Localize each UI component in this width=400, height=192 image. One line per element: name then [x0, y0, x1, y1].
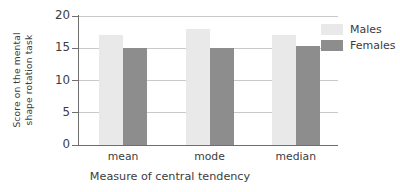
- x-axis-label-mode: mode: [170, 150, 250, 163]
- legend-label-males: Males: [350, 23, 382, 36]
- bar-median-males: [272, 35, 296, 145]
- legend-item-females: Females: [321, 37, 396, 53]
- legend: Males Females: [321, 21, 396, 53]
- bar-mode-males: [186, 29, 210, 145]
- bar-mean-females: [123, 48, 147, 145]
- x-axis-label-mean: mean: [83, 150, 163, 163]
- x-axis-line: [78, 145, 338, 146]
- legend-item-males: Males: [321, 21, 396, 37]
- y-axis-tick-label: 15: [44, 40, 70, 54]
- bar-chart: Score on the mental shape rotation task …: [0, 0, 400, 192]
- y-axis-tick-label: 0: [44, 137, 70, 151]
- bar-mode-females: [210, 48, 234, 145]
- bar-median-females: [296, 46, 320, 145]
- y-axis-title: Score on the mental shape rotation task: [0, 0, 46, 160]
- y-axis-title-line2: shape rotation task: [23, 32, 35, 127]
- legend-label-females: Females: [350, 39, 396, 52]
- plot-area: [79, 16, 338, 145]
- y-axis-title-line1: Score on the mental: [11, 32, 23, 127]
- y-axis-tick-label: 10: [44, 73, 70, 87]
- y-axis-tick-label: 20: [44, 8, 70, 22]
- legend-swatch-females-icon: [321, 40, 343, 51]
- x-axis-title: Measure of central tendency: [0, 170, 340, 183]
- y-axis-tick-label: 5: [44, 105, 70, 119]
- bar-mean-males: [99, 35, 123, 145]
- legend-swatch-males-icon: [321, 24, 343, 35]
- x-axis-label-median: median: [256, 150, 336, 163]
